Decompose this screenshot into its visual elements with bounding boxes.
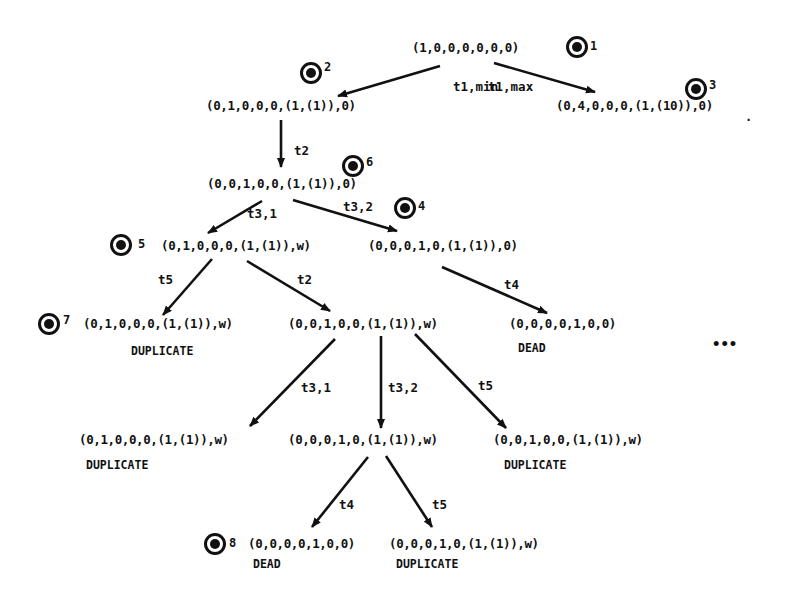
bullseye-marker-icon: 8 [204,533,226,555]
edge-arrows [0,0,789,607]
edge-t4-b [312,457,368,527]
edge-t2-b [247,261,330,311]
edge-t4 [442,267,547,313]
edge-label-t3-1-b: t3,1 [301,380,331,395]
node-7-marking: (0,1,0,0,0,(1,(1)),w) [83,316,233,331]
node-10-status: DUPLICATE [86,458,148,472]
node-9-status: DEAD [518,341,546,355]
edge-label-t1-max: t1,max [488,79,533,94]
edge-t1-min [338,66,440,96]
edge-label-t3-2-b: t3,2 [388,380,418,395]
edge-label-t4-b: t4 [339,497,354,512]
node-5-marking: (0,1,0,0,0,(1,(1)),w) [161,238,311,253]
node-13-status: DEAD [253,557,281,571]
node-6-marking: (0,0,0,1,0,(1,(1)),0) [368,238,518,253]
marker-number: 1 [590,39,597,53]
reachability-tree-diagram: t1,min t1,max t2 t3,1 t3,2 t5 t2 t4 t3,1… [0,0,789,607]
marker-number: 4 [418,199,425,213]
edge-label-t5-b: t5 [478,378,493,393]
bullseye-marker-icon: 6 [342,155,364,177]
node-10-marking: (0,1,0,0,0,(1,(1)),w) [79,432,229,447]
node-11-marking: (0,0,0,1,0,(1,(1)),w) [288,432,438,447]
edge-label-t3-1: t3,1 [247,206,277,221]
marker-number: 8 [229,536,236,550]
edge-label-t4: t4 [504,277,519,292]
bullseye-marker-icon: 1 [566,36,588,58]
edge-label-t5-c: t5 [432,497,447,512]
bullseye-marker-icon: 4 [394,197,416,219]
edge-label-t3-2: t3,2 [343,199,373,214]
edge-label-t5: t5 [158,272,173,287]
bullseye-marker-icon: 2 [300,62,322,84]
marker-number: 3 [709,78,716,92]
edge-label-t2-b: t2 [297,272,312,287]
marker-number: 6 [366,155,373,169]
bullseye-marker-icon: 5 [110,234,132,256]
node-4-marking: (0,0,1,0,0,(1,(1)),0) [207,176,357,191]
bullseye-marker-icon: 3 [685,78,707,100]
edge-label-t2: t2 [294,143,309,158]
node-14-status: DUPLICATE [396,557,458,571]
bullseye-marker-icon: 7 [38,313,60,335]
edge-t5-c [386,456,432,527]
node-12-marking: (0,0,1,0,0,(1,(1)),w) [493,432,643,447]
node-3-marking: (0,4,0,0,0,(1,(10)),0) [556,98,713,113]
node-12-status: DUPLICATE [504,458,566,472]
node-14-marking: (0,0,0,1,0,(1,(1)),w) [389,536,539,551]
node-13-marking: (0,0,0,0,1,0,0) [248,536,355,551]
node-1-marking: (1,0,0,0,0,0,0) [412,40,519,55]
node-2-marking: (0,1,0,0,0,(1,(1)),0) [206,98,356,113]
continuation-ellipsis: ••• [712,336,737,352]
node-7-status: DUPLICATE [131,344,193,358]
marker-number: 5 [138,237,145,251]
stray-dot: . [745,110,752,124]
marker-number: 7 [63,313,70,327]
node-8-marking: (0,0,1,0,0,(1,(1)),w) [288,316,438,331]
node-9-marking: (0,0,0,0,1,0,0) [509,316,616,331]
edge-t5 [163,259,212,315]
marker-number: 2 [324,60,331,74]
